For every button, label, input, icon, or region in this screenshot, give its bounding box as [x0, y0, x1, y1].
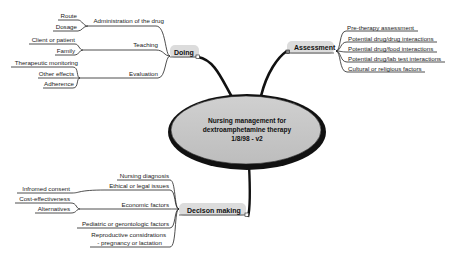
leaf-therapeutic-monitoring[interactable]: Therapeutic monitoring: [15, 59, 79, 66]
leaf-route[interactable]: Route: [60, 12, 77, 19]
collapse-toggle-icon[interactable]: [196, 55, 200, 59]
leaf-drug-lab-test-interactions[interactable]: Potential drug/lab test interactions: [348, 55, 441, 62]
branch-doing[interactable]: Doing: [170, 45, 200, 59]
subtopic-administration[interactable]: Administration of the drug: [93, 17, 164, 24]
connector-center-doing: [198, 57, 232, 97]
subtopic-pediatric-gerontologic[interactable]: Pediatric or gerontologic factors: [82, 220, 169, 227]
connector: [83, 50, 170, 56]
leaf-drug-food-interactions[interactable]: Potential drug/food interactions: [348, 45, 433, 52]
leaf-family[interactable]: Family: [57, 47, 76, 54]
subtopic-evaluation[interactable]: Evaluation: [129, 70, 158, 77]
collapse-toggle-icon[interactable]: [286, 50, 290, 54]
subtopic-nursing-diagnosis[interactable]: Nursing diagnosis: [120, 172, 169, 179]
subtopic-teaching[interactable]: Teaching: [133, 41, 158, 48]
branch-label: Decison making: [187, 207, 241, 215]
connector-center-assessment: [261, 51, 287, 96]
branch-decision-making[interactable]: Decison making: [179, 203, 249, 217]
leaf-informed-consent[interactable]: Infromed consent: [22, 185, 70, 192]
leaf-cost-effectiveness[interactable]: Cost-effectiveness: [19, 195, 70, 202]
subtopic-reproductive-line-2[interactable]: - pregnancy or lactation: [97, 239, 162, 246]
subtopic-economic-factors[interactable]: Economic factors: [122, 201, 169, 208]
leaf-alternatives[interactable]: Alternatives: [38, 205, 70, 212]
branch-label: Assessment: [294, 44, 336, 51]
central-topic-line-2: dextroamphetamine therapy: [203, 126, 292, 134]
branch-label: Doing: [174, 49, 194, 57]
connector-center-decision: [248, 165, 250, 217]
leaf-cultural-religious-factors[interactable]: Cultural or religious factors: [348, 65, 422, 72]
leaf-pre-therapy-assessment[interactable]: Pre-therapy assessment: [347, 24, 414, 31]
collapse-toggle-icon[interactable]: [245, 213, 249, 217]
branch-assessment[interactable]: Assessment: [286, 41, 336, 54]
subtopic-ethical-legal-issues[interactable]: Ethical or legal issues: [109, 182, 169, 189]
leaf-adherence[interactable]: Adherence: [44, 80, 74, 87]
central-topic-line-3: 1/8/98 - v2: [231, 135, 263, 142]
central-topic-line-1: Nursing management for: [208, 117, 286, 125]
leaf-client-or-patient[interactable]: Client or patient: [32, 36, 76, 43]
leaf-dosage[interactable]: Dosage: [56, 23, 78, 30]
central-topic[interactable]: Nursing management for dextroamphetamine…: [168, 94, 326, 170]
subtopic-reproductive-line-1[interactable]: Reproductive considrations: [91, 231, 166, 238]
leaf-other-effects[interactable]: Other effects: [39, 70, 74, 77]
mind-map: Nursing management for dextroamphetamine…: [0, 0, 450, 262]
leaf-drug-drug-interactions[interactable]: Potential drug/drug interactions: [348, 35, 434, 42]
